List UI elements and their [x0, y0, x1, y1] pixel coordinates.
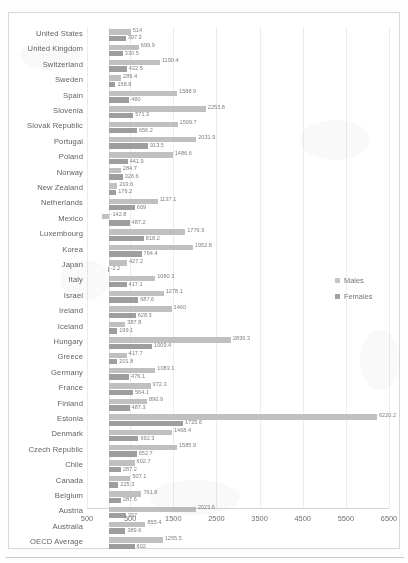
chart-row: New Zealand203.6176.2 [9, 182, 399, 198]
bar-males [109, 414, 377, 419]
category-label: Slovenia [9, 106, 83, 115]
category-label: OECD Average [9, 537, 83, 546]
bar-females [109, 482, 119, 487]
bar-females [109, 36, 126, 41]
chart-row: Canada507.1225.3 [9, 475, 399, 491]
bar-females [109, 467, 121, 472]
bar-females [109, 344, 153, 349]
chart-row: Greece417.7201.8 [9, 351, 399, 367]
chart-legend: Males Females [335, 276, 405, 308]
chart-row: Poland1486.6441.9 [9, 151, 399, 167]
bar-females [109, 436, 139, 441]
data-label-females: 397 [128, 512, 137, 518]
bar-females [109, 544, 135, 549]
data-label-females: 564.1 [135, 389, 149, 395]
scanned-page: 500500150025003500450055006500United Sta… [0, 0, 408, 563]
data-label-males: 1137.1 [160, 196, 177, 202]
data-label-males: 6220.2 [379, 412, 396, 418]
bar-females [109, 82, 116, 87]
data-label-males: 1486.6 [175, 150, 192, 156]
data-label-females: 628.3 [138, 312, 152, 318]
data-label-males: 890.9 [149, 396, 163, 402]
data-label-females: 913.5 [150, 142, 164, 148]
data-label-males: 1776.9 [187, 227, 204, 233]
bar-females [109, 113, 134, 118]
data-label-females: 225.3 [120, 481, 134, 487]
data-label-females: 1009.4 [154, 342, 171, 348]
data-label-males: 1599.7 [180, 119, 197, 125]
chart-row: Iceland387.8199.1 [9, 321, 399, 337]
data-label-males: 1255.5 [165, 535, 182, 541]
data-label-males: 699.9 [141, 42, 155, 48]
bar-males [109, 199, 158, 204]
bar-females [108, 267, 109, 272]
data-label-females: 158.8 [117, 81, 131, 87]
category-label: Canada [9, 476, 83, 485]
category-label: Japan [9, 260, 83, 269]
bar-males [109, 291, 164, 296]
bar-females [109, 97, 130, 102]
chart-frame: 500500150025003500450055006500United Sta… [8, 12, 400, 549]
bar-males [109, 507, 196, 512]
bar-females [109, 66, 127, 71]
data-label-females: 176.2 [118, 188, 132, 194]
category-label: Ireland [9, 306, 83, 315]
data-label-females: 571.3 [135, 111, 149, 117]
category-label: New Zealand [9, 183, 83, 192]
category-label: Australia [9, 522, 83, 531]
bar-females [109, 174, 123, 179]
data-label-males: 427.2 [129, 258, 143, 264]
data-label-males: 2023.6 [198, 504, 215, 510]
bar-females [109, 313, 136, 318]
category-label: Estonia [9, 414, 83, 423]
legend-swatch-males [335, 278, 340, 283]
category-label: Austria [9, 506, 83, 515]
data-label-males: 761.8 [143, 489, 157, 495]
category-label: Switzerland [9, 60, 83, 69]
category-label: Netherlands [9, 198, 83, 207]
category-label: United States [9, 29, 83, 38]
legend-item-females: Females [335, 292, 405, 301]
category-label: Spain [9, 91, 83, 100]
data-label-females: 480 [131, 96, 140, 102]
data-label-females: 287.2 [123, 466, 137, 472]
data-label-males: 855.4 [147, 519, 161, 525]
bar-females [109, 374, 130, 379]
category-label: United Kingdom [9, 44, 83, 53]
bar-females [109, 359, 118, 364]
bar-females [109, 159, 128, 164]
data-label-males: 2836.3 [233, 335, 250, 341]
category-label: Sweden [9, 75, 83, 84]
category-label: Israel [9, 291, 83, 300]
bar-females [109, 451, 137, 456]
category-label: Portugal [9, 137, 83, 146]
category-label: France [9, 383, 83, 392]
category-label: Mexico [9, 214, 83, 223]
bar-females [109, 220, 130, 225]
bar-females [109, 251, 142, 256]
data-label-females: 441.9 [130, 158, 144, 164]
bar-males [109, 168, 121, 173]
chart-row: Sweden289.4158.8 [9, 74, 399, 90]
data-label-males: 1585.9 [179, 442, 196, 448]
data-label-females: 330.5 [125, 50, 139, 56]
chart-row: Estonia6220.21725.6 [9, 413, 399, 429]
data-label-females: 818.2 [146, 235, 160, 241]
category-label: Italy [9, 275, 83, 284]
data-label-males: 1952.8 [195, 242, 212, 248]
category-label: Germany [9, 368, 83, 377]
chart-row: Norway284.7326.6 [9, 167, 399, 183]
chart-row: Germany1083.1476.1 [9, 367, 399, 383]
data-label-males: 1083.1 [157, 365, 174, 371]
chart-row: Switzerland1190.4422.5 [9, 59, 399, 75]
chart-row: Australia855.4389.6 [9, 521, 399, 537]
bar-females [109, 528, 126, 533]
bar-females [109, 143, 148, 148]
chart-row: Spain1588.9480 [9, 90, 399, 106]
data-label-males: 284.7 [123, 165, 137, 171]
data-label-males: 1588.9 [179, 88, 196, 94]
data-label-males: 2253.8 [208, 104, 225, 110]
category-label: Chile [9, 460, 83, 469]
legend-label-males: Males [344, 276, 364, 285]
data-label-males: 602.7 [137, 458, 151, 464]
